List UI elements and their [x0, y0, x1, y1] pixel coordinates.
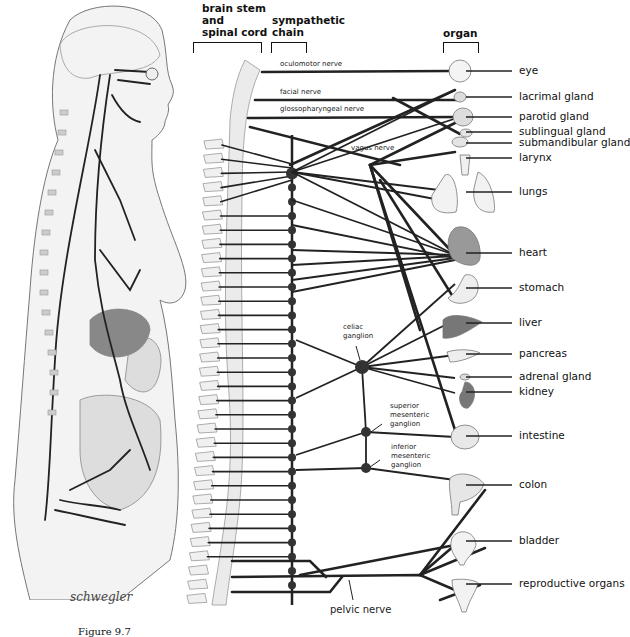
vertebra: [198, 409, 218, 419]
vertebra: [200, 324, 220, 334]
inferior-mesenteric-ganglion-label: inferior mesenteric ganglion: [391, 443, 430, 470]
chain-ganglion: [288, 453, 296, 461]
vertebra: [203, 196, 223, 206]
organ-label-eye: eye: [519, 64, 538, 76]
organ-label-kidney: kidney: [519, 385, 554, 397]
chain-ganglion: [288, 255, 296, 263]
vertebra: [199, 366, 219, 376]
submandibular-gland-illustration: [452, 137, 468, 147]
chain-ganglion: [288, 283, 296, 291]
lacrimal-gland-illustration: [454, 92, 466, 102]
chain-ganglion: [288, 524, 296, 532]
vertebra: [200, 352, 220, 362]
celiac-ganglion-label: celiac ganglion: [343, 323, 373, 341]
vertebra: [202, 253, 222, 263]
colon-illustration: [449, 474, 484, 515]
vertebra: [203, 167, 223, 177]
chain-ganglion: [288, 326, 296, 334]
organ-label-heart: heart: [519, 246, 547, 258]
vertebrae: [187, 139, 224, 603]
superior-mesenteric-ganglion: [361, 427, 371, 437]
vertebra: [193, 494, 213, 504]
oculomotor-nerve-line: [262, 71, 450, 72]
vertebra: [202, 224, 222, 234]
organ-label-adrenal-gland: adrenal gland: [519, 370, 591, 382]
facial-nerve-label: facial nerve: [280, 88, 321, 96]
vertebra: [202, 210, 222, 220]
organ-label-stomach: stomach: [519, 281, 564, 293]
organ-label-lacrimal-gland: lacrimal gland: [519, 90, 594, 102]
chain-ganglion: [288, 184, 296, 192]
vertebra: [194, 480, 214, 490]
chain-ganglion: [288, 482, 296, 490]
vertebra: [189, 565, 209, 575]
stomach-organ-illustration: [448, 275, 478, 304]
pelvic-nerve-line: [232, 575, 455, 590]
chain-ganglion: [288, 368, 296, 376]
organ-label-larynx: larynx: [519, 151, 552, 163]
organ-label-lungs: lungs: [519, 185, 547, 197]
vertebra: [201, 281, 221, 291]
vertebra: [204, 139, 224, 149]
inferior-mesenteric-ganglion: [361, 463, 371, 473]
chain-ganglion: [288, 510, 296, 518]
glossopharyngeal-nerve-label: glossopharyngeal nerve: [280, 105, 364, 113]
chain-ganglion: [288, 397, 296, 405]
vertebra: [201, 267, 221, 277]
pelvic-nerve-label: pelvic nerve: [330, 604, 391, 615]
chain-ganglion: [288, 297, 296, 305]
pancreas-illustration: [447, 350, 480, 362]
organ-label-pancreas: pancreas: [519, 347, 567, 359]
heart-illustration: [448, 227, 480, 265]
liver-organ-illustration: [443, 316, 482, 339]
chain-ganglion: [288, 581, 296, 589]
postganglionic-fiber: [292, 172, 455, 255]
chain-ganglion: [288, 340, 296, 348]
vertebra: [195, 466, 215, 476]
postganglionic-fiber: [292, 90, 455, 172]
chain-ganglion: [288, 382, 296, 390]
sublingual-gland-illustration: [460, 129, 472, 137]
organ-label-colon: colon: [519, 478, 547, 490]
chain-ganglion: [288, 439, 296, 447]
organ-label-intestine: intestine: [519, 429, 565, 441]
organ-label-parotid-gland: parotid gland: [519, 110, 589, 122]
vertebra: [197, 423, 217, 433]
vertebra: [189, 551, 209, 561]
vertebra: [192, 508, 212, 518]
organ-label-reproductive-organs: reproductive organs: [519, 577, 625, 589]
chain-ganglion: [288, 354, 296, 362]
intestine-illustration: [451, 425, 479, 449]
vertebra: [201, 295, 221, 305]
vertebra: [190, 537, 210, 547]
chain-ganglion: [288, 425, 296, 433]
chain-ganglion: [288, 496, 296, 504]
kidney-illustration: [460, 382, 475, 408]
organ-label-submandibular-gland: submandibular gland: [519, 136, 630, 148]
chain-ganglion: [288, 553, 296, 561]
chain-ganglion: [288, 212, 296, 220]
chain-ganglion: [288, 226, 296, 234]
vertebra: [204, 153, 224, 163]
chain-ganglion: [288, 411, 296, 419]
vertebra: [203, 182, 223, 192]
vertebra: [191, 522, 211, 532]
vagus-nerve-label: vagus nerve: [351, 144, 394, 152]
celiac-ganglion: [355, 360, 369, 374]
vertebra: [187, 593, 207, 603]
vertebra: [199, 395, 219, 405]
chain-ganglion: [288, 567, 296, 575]
organ-label-bladder: bladder: [519, 534, 559, 546]
postganglionic-fiber: [292, 172, 440, 200]
vertebra: [195, 451, 215, 461]
vertebra: [200, 380, 220, 390]
chain-ganglion: [288, 240, 296, 248]
organ-label-liver: liver: [519, 316, 542, 328]
chain-ganglion: [288, 468, 296, 476]
superior-mesenteric-ganglion-label: superior mesenteric ganglion: [390, 402, 429, 429]
chain-ganglion: [288, 311, 296, 319]
vertebra: [196, 437, 216, 447]
chain-ganglion: [288, 269, 296, 277]
vertebra: [200, 338, 220, 348]
